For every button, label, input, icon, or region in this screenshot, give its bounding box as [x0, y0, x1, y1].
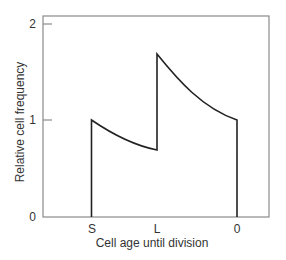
- x-axis-title: Cell age until division: [96, 236, 209, 250]
- x-tick-label-s: S: [88, 222, 96, 236]
- x-tick-label-0: 0: [234, 222, 241, 236]
- chart: 2 1 0 S L 0 Cell age until division Rela…: [0, 0, 286, 260]
- frequency-curve: [92, 54, 238, 217]
- y-tick-label-0: 0: [29, 210, 36, 224]
- y-tick-label-2: 2: [29, 17, 36, 31]
- y-tick-label-1: 1: [29, 113, 36, 127]
- plot-frame: [43, 16, 269, 217]
- x-tick-label-l: L: [154, 222, 161, 236]
- y-axis-title: Relative cell frequency: [13, 62, 27, 183]
